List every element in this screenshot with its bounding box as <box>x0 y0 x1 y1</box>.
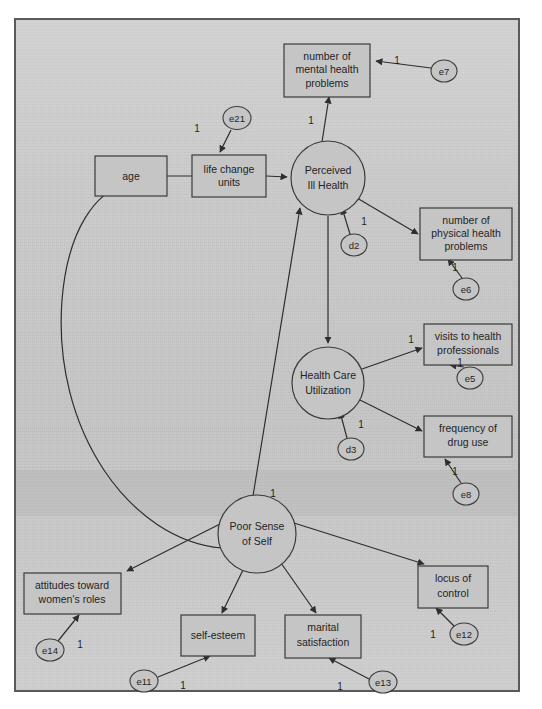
edge-e21-to-life-change-units <box>220 130 231 152</box>
edge-poor-sense-of-self-to-perceived-ill-health <box>253 208 300 496</box>
error-term-e11[interactable]: e11 <box>130 670 158 692</box>
node-visits-label-line1: visits to health <box>435 330 502 342</box>
coefficient-e11: 1 <box>180 680 186 691</box>
node-visits-to-health-professionals[interactable]: visits to health professionals <box>424 324 512 365</box>
node-physical-health-problems[interactable]: number of physical health problems <box>420 208 512 260</box>
node-life-change-units-label-line1: life change <box>204 163 255 175</box>
edge-poor-sense-of-self-to-attitudes <box>127 524 220 571</box>
edge-health-care-utilization-to-drug-use <box>360 400 422 431</box>
error-term-e13-label: e13 <box>375 677 391 688</box>
edge-poor-sense-of-self-to-self-esteem <box>222 570 243 613</box>
error-term-d2[interactable]: d2 <box>341 234 367 256</box>
node-age[interactable]: age <box>95 156 167 196</box>
edge-life-change-units-to-perceived-ill-health <box>266 176 287 177</box>
node-attitudes-label-line2: women's roles <box>38 593 106 605</box>
error-term-d2-label: d2 <box>349 240 360 251</box>
edge-e7-to-mental-health-problems <box>376 61 431 68</box>
edge-poor-sense-of-self-to-locus-of-control <box>294 523 424 564</box>
edge-health-care-utilization-to-visits <box>362 348 422 369</box>
error-term-e14[interactable]: e14 <box>36 639 64 661</box>
error-term-e11-label: e11 <box>136 676 151 687</box>
node-poor-sense-of-self[interactable]: Poor Sense of Self <box>218 495 296 573</box>
coefficient-e12: 1 <box>430 629 436 640</box>
error-term-e14-label: e14 <box>42 645 58 656</box>
error-term-e6-label: e6 <box>461 284 472 295</box>
diagram-page: age life change units number of mental h… <box>0 0 542 709</box>
error-term-d3-label: d3 <box>346 444 357 455</box>
node-physical-health-problems-label-line2: physical health <box>431 227 501 239</box>
node-mental-health-problems-label-line3: problems <box>305 77 348 89</box>
coefficient-e14: 1 <box>77 639 83 650</box>
coefficient-perceived-ill-health-to-mental: 1 <box>308 115 314 126</box>
node-frequency-of-drug-use[interactable]: frequency of drug use <box>424 416 512 457</box>
node-poor-sense-of-self-label-line2: of Self <box>242 535 272 547</box>
node-health-care-utilization[interactable]: Health Care Utilization <box>292 347 364 419</box>
coefficient-e7: 1 <box>394 55 400 66</box>
node-life-change-units-label-line2: units <box>218 176 240 188</box>
node-poor-sense-of-self-label-line1: Poor Sense <box>230 520 285 532</box>
node-self-esteem[interactable]: self-esteem <box>181 615 255 656</box>
error-term-e21-label: e21 <box>229 113 245 124</box>
node-marital-satisfaction-label-line1: marital <box>307 621 339 633</box>
coefficient-e5: 1 <box>457 357 463 368</box>
coefficient-d3: 1 <box>358 419 364 430</box>
node-locus-of-control-label-line2: control <box>437 587 469 599</box>
coefficient-d2: 1 <box>361 216 367 227</box>
coefficient-e21: 1 <box>194 123 200 134</box>
node-age-label: age <box>122 170 140 182</box>
node-health-care-utilization-label-line2: Utilization <box>305 384 351 396</box>
node-life-change-units[interactable]: life change units <box>192 155 266 197</box>
edge-e14-to-attitudes <box>58 615 79 641</box>
node-perceived-ill-health-label-line1: Perceived <box>305 164 352 176</box>
node-visits-label-line2: professionals <box>437 344 499 356</box>
coefficient-labels-layer: 1 1 1 1 1 1 1 1 1 1 1 1 1 1 <box>77 55 463 692</box>
node-perceived-ill-health[interactable]: Perceived Ill Health <box>291 141 365 215</box>
coefficient-e6: 1 <box>452 262 458 273</box>
error-term-e12[interactable]: e12 <box>450 623 478 645</box>
edge-poor-sense-of-self-to-marital-satisfaction <box>281 563 316 613</box>
node-attitudes-toward-womens-roles[interactable]: attitudes toward women's roles <box>24 573 121 614</box>
error-term-e8[interactable]: e8 <box>453 483 479 505</box>
error-term-e7[interactable]: e7 <box>431 60 457 82</box>
error-term-e5[interactable]: e5 <box>457 367 483 389</box>
node-self-esteem-label: self-esteem <box>191 629 246 641</box>
node-locus-of-control[interactable]: locus of control <box>418 566 488 608</box>
error-term-e8-label: e8 <box>461 489 472 500</box>
node-marital-satisfaction-label-line2: satisfaction <box>297 636 350 648</box>
node-attitudes-label-line1: attitudes toward <box>35 579 109 591</box>
coefficient-poor-sense-of-self-to-perceived-ill-health: 1 <box>270 488 276 499</box>
error-term-e13[interactable]: e13 <box>369 671 397 693</box>
node-drug-use-label-line1: frequency of <box>439 422 497 434</box>
error-term-d3[interactable]: d3 <box>338 438 364 460</box>
node-locus-of-control-label-line1: locus of <box>435 572 471 584</box>
edge-e13-to-marital-satisfaction <box>329 658 369 679</box>
edge-poor-sense-of-self-to-age <box>61 185 222 548</box>
node-mental-health-problems-label-line1: number of <box>303 50 350 62</box>
coefficient-e13: 1 <box>337 681 343 692</box>
edge-e12-to-locus-of-control <box>436 608 454 626</box>
node-physical-health-problems-label-line1: number of <box>442 214 489 226</box>
nodes-layer: age life change units number of mental h… <box>24 44 512 658</box>
coefficient-health-care-utilization-to-visits: 1 <box>408 334 414 345</box>
error-term-e6[interactable]: e6 <box>453 278 479 300</box>
error-term-e7-label: e7 <box>439 66 450 77</box>
node-marital-satisfaction[interactable]: marital satisfaction <box>285 615 361 658</box>
node-drug-use-label-line2: drug use <box>448 436 489 448</box>
node-perceived-ill-health-label-line2: Ill Health <box>308 179 349 191</box>
node-mental-health-problems[interactable]: number of mental health problems <box>284 44 370 97</box>
edge-perceived-ill-health-to-mental-health-problems <box>322 97 329 142</box>
node-health-care-utilization-label-line1: Health Care <box>300 369 356 381</box>
path-diagram-canvas: age life change units number of mental h… <box>0 0 542 709</box>
coefficient-e8: 1 <box>452 466 458 477</box>
error-term-e12-label: e12 <box>456 629 472 640</box>
node-physical-health-problems-label-line3: problems <box>444 240 487 252</box>
error-term-e5-label: e5 <box>465 373 476 384</box>
node-mental-health-problems-label-line2: mental health <box>295 63 358 75</box>
edge-e11-to-self-esteem <box>158 656 210 677</box>
error-term-e21[interactable]: e21 <box>223 107 251 130</box>
